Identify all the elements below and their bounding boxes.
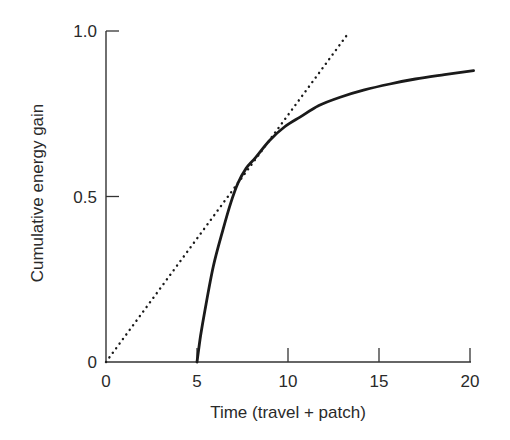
y-ticks: 00.51.0 — [73, 22, 119, 372]
plot-area: 05101520 00.51.0 — [73, 22, 479, 391]
series-layer — [106, 35, 474, 362]
x-tick-label: 10 — [279, 372, 298, 391]
y-tick-label: 1.0 — [73, 22, 97, 41]
y-tick-label: 0.5 — [73, 188, 97, 207]
gain-curve — [197, 71, 474, 362]
tangent-line — [106, 35, 347, 362]
x-axis-label: Time (travel + patch) — [210, 403, 366, 422]
y-tick-label: 0 — [88, 353, 97, 372]
x-tick-label: 0 — [101, 372, 110, 391]
y-axis-label: Cumulative energy gain — [28, 104, 47, 283]
x-tick-label: 5 — [192, 372, 201, 391]
x-tick-label: 20 — [461, 372, 480, 391]
x-tick-label: 15 — [370, 372, 389, 391]
chart: 05101520 00.51.0 Time (travel + patch) C… — [0, 0, 510, 440]
x-ticks: 05101520 — [101, 348, 479, 391]
